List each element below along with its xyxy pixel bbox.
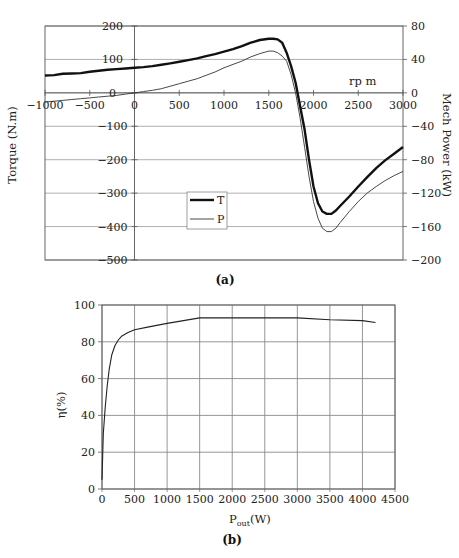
chart-b-gridlines bbox=[98, 305, 395, 492]
y-axis-label-right: Mech Power (kW) bbox=[440, 93, 454, 197]
y2-tick-label: −160 bbox=[411, 221, 441, 234]
x-tick-label: 2500 bbox=[344, 99, 372, 112]
y-axis-label: η(%) bbox=[54, 392, 68, 419]
x-axis-label: rp m bbox=[349, 74, 377, 88]
x-tick-label: 1500 bbox=[255, 99, 283, 112]
y-tick-label: −300 bbox=[97, 187, 127, 200]
y-axis-label-left: Torque (N.m) bbox=[5, 106, 19, 183]
x-tick-label: 500 bbox=[169, 99, 190, 112]
x-tick-label: 0 bbox=[131, 99, 138, 112]
x-tick-label: 4500 bbox=[381, 493, 409, 506]
y2-tick-label: 80 bbox=[411, 20, 425, 33]
plot-frame bbox=[102, 305, 395, 489]
caption-a: (a) bbox=[215, 273, 234, 287]
y-tick-label: 80 bbox=[81, 336, 95, 349]
y2-tick-label: 40 bbox=[411, 53, 425, 66]
y-tick-label: −400 bbox=[97, 221, 127, 234]
x-tick-label: −500 bbox=[75, 99, 105, 112]
y-tick-label: 60 bbox=[81, 373, 95, 386]
x-tick-label: 500 bbox=[124, 493, 145, 506]
x-axis-label-unit: (W) bbox=[250, 512, 271, 526]
y-tick-label: 200 bbox=[102, 20, 123, 33]
x-tick-label: 0 bbox=[99, 493, 106, 506]
figure: −1000−5000500100015002000250030002001000… bbox=[0, 0, 459, 558]
x-tick-label: −1000 bbox=[26, 99, 63, 112]
y-tick-label: −200 bbox=[97, 154, 127, 167]
y-tick-label: 0 bbox=[109, 87, 116, 100]
x-tick-label: 4000 bbox=[348, 493, 376, 506]
x-tick-label: 3000 bbox=[283, 493, 311, 506]
caption-b: (b) bbox=[222, 533, 242, 547]
chart-a-tick-labels: −1000−5000500100015002000250030002001000… bbox=[26, 20, 441, 267]
y2-tick-label: −40 bbox=[411, 120, 434, 133]
x-tick-label: 2000 bbox=[300, 99, 328, 112]
y2-tick-label: −200 bbox=[411, 254, 441, 267]
x-tick-label: 1000 bbox=[210, 99, 238, 112]
y-tick-label: 100 bbox=[102, 53, 123, 66]
x-tick-label: 2500 bbox=[251, 493, 279, 506]
y-tick-label: 20 bbox=[81, 446, 95, 459]
x-axis-label: Pout(W) bbox=[229, 512, 271, 528]
y2-tick-label: −120 bbox=[411, 187, 441, 200]
chart-b-tick-labels: 0204060801000500100015002000250030003500… bbox=[74, 299, 409, 506]
y-tick-label: 100 bbox=[74, 299, 95, 312]
x-axis-label-subscript: out bbox=[237, 519, 251, 528]
y2-tick-label: 0 bbox=[411, 87, 418, 100]
x-tick-label: 3500 bbox=[316, 493, 344, 506]
y-tick-label: −100 bbox=[97, 120, 127, 133]
efficiency-chart: 0204060801000500100015002000250030003500… bbox=[54, 299, 409, 547]
y2-tick-label: −80 bbox=[411, 154, 434, 167]
x-tick-label: 1000 bbox=[153, 493, 181, 506]
y-tick-label: −500 bbox=[97, 254, 127, 267]
torque-power-chart: −1000−5000500100015002000250030002001000… bbox=[5, 20, 454, 287]
x-tick-label: 2000 bbox=[218, 493, 246, 506]
x-tick-label: 1500 bbox=[186, 493, 214, 506]
y-tick-label: 0 bbox=[88, 483, 95, 496]
legend-label-p: P bbox=[217, 213, 225, 226]
y-tick-label: 40 bbox=[81, 409, 95, 422]
x-tick-label: 3000 bbox=[389, 99, 417, 112]
legend-label-t: T bbox=[217, 194, 225, 207]
legend: T P bbox=[187, 192, 227, 229]
